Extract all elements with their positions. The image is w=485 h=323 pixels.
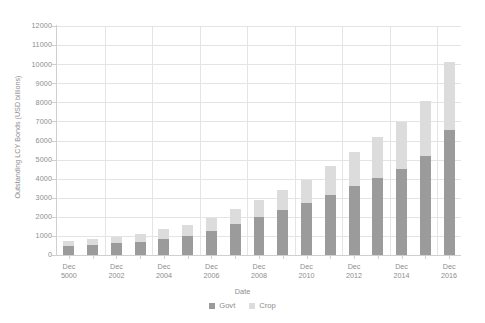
gridline-vertical — [152, 26, 153, 255]
y-tick-mark — [52, 64, 56, 65]
gridline-horizontal — [57, 102, 461, 103]
bar-segment-govt[interactable] — [230, 224, 241, 255]
bar-stack[interactable] — [111, 237, 122, 255]
x-tick-mark — [330, 255, 331, 259]
y-tick-mark — [52, 198, 56, 199]
bar-segment-crop[interactable] — [372, 137, 383, 178]
y-tick-mark — [52, 121, 56, 122]
x-tick-label-year: 2016 — [429, 271, 469, 280]
bar-stack[interactable] — [372, 137, 383, 255]
y-tick-mark — [52, 102, 56, 103]
legend-label: Crop — [259, 301, 275, 310]
bar-segment-govt[interactable] — [254, 217, 265, 255]
y-tick-label: 5000 — [36, 156, 52, 163]
bar-segment-crop[interactable] — [230, 209, 241, 224]
y-tick-label: 12000 — [32, 22, 53, 29]
x-axis-title: Date — [0, 287, 485, 296]
bar-segment-crop[interactable] — [396, 122, 407, 169]
bar-segment-crop[interactable] — [158, 229, 169, 239]
y-tick-mark — [52, 141, 56, 142]
bar-segment-govt[interactable] — [87, 245, 98, 255]
bar-stack[interactable] — [396, 122, 407, 255]
bar-segment-crop[interactable] — [420, 101, 431, 155]
x-tick-mark — [69, 255, 70, 259]
x-tick-mark — [354, 255, 355, 259]
x-tick-label: Dec2012 — [334, 262, 374, 280]
bar-segment-crop[interactable] — [63, 241, 74, 246]
x-tick-label: Dec5000 — [49, 262, 89, 280]
bar-segment-govt[interactable] — [372, 178, 383, 255]
x-tick-mark — [116, 255, 117, 259]
bar-stack[interactable] — [349, 152, 360, 255]
bar-stack[interactable] — [158, 229, 169, 255]
bar-segment-govt[interactable] — [182, 236, 193, 255]
bar-segment-crop[interactable] — [87, 239, 98, 245]
bar-segment-crop[interactable] — [206, 218, 217, 231]
bar-segment-crop[interactable] — [277, 190, 288, 210]
x-tick-label-month: Dec — [287, 262, 327, 271]
y-tick-mark — [52, 26, 56, 27]
x-tick-label-year: 2006 — [191, 271, 231, 280]
bar-stack[interactable] — [254, 200, 265, 255]
x-tick-label: Dec2002 — [96, 262, 136, 280]
bar-segment-crop[interactable] — [301, 180, 312, 204]
bar-segment-crop[interactable] — [325, 166, 336, 195]
bar-segment-crop[interactable] — [349, 152, 360, 186]
x-tick-mark — [378, 255, 379, 259]
bar-segment-govt[interactable] — [63, 246, 74, 255]
gridline-horizontal — [57, 64, 461, 65]
x-tick-mark — [307, 255, 308, 259]
bar-segment-govt[interactable] — [349, 186, 360, 255]
x-tick-label-year: 5000 — [49, 271, 89, 280]
bar-stack[interactable] — [277, 190, 288, 255]
x-tick-label-year: 2014 — [382, 271, 422, 280]
bar-stack[interactable] — [63, 241, 74, 255]
bar-stack[interactable] — [420, 101, 431, 255]
bar-segment-crop[interactable] — [111, 237, 122, 243]
x-tick-mark — [235, 255, 236, 259]
bar-stack[interactable] — [206, 218, 217, 255]
y-tick-mark — [52, 255, 56, 256]
bar-segment-govt[interactable] — [396, 169, 407, 255]
x-tick-mark — [425, 255, 426, 259]
x-tick-mark — [188, 255, 189, 259]
bar-segment-govt[interactable] — [444, 130, 455, 255]
y-tick-label: 4000 — [36, 175, 52, 182]
bar-stack[interactable] — [87, 239, 98, 255]
x-tick-label: Dec2008 — [239, 262, 279, 280]
bar-stack[interactable] — [444, 62, 455, 255]
bar-chart: 0100020003000400050006000700080009000100… — [0, 0, 485, 323]
legend-swatch-icon — [209, 303, 215, 309]
y-tick-mark — [52, 236, 56, 237]
bar-stack[interactable] — [325, 166, 336, 255]
legend-item[interactable]: Govt — [209, 301, 235, 310]
bar-stack[interactable] — [230, 209, 241, 255]
y-tick-label: 8000 — [36, 99, 52, 106]
bar-segment-govt[interactable] — [135, 242, 146, 255]
bar-stack[interactable] — [135, 234, 146, 255]
legend-label: Govt — [219, 301, 235, 310]
bar-segment-crop[interactable] — [182, 225, 193, 236]
bar-segment-govt[interactable] — [158, 239, 169, 255]
legend-item[interactable]: Crop — [249, 301, 275, 310]
x-tick-mark — [283, 255, 284, 259]
y-tick-mark — [52, 179, 56, 180]
bar-segment-crop[interactable] — [254, 200, 265, 217]
bar-segment-govt[interactable] — [277, 210, 288, 255]
bar-stack[interactable] — [301, 180, 312, 255]
bar-segment-govt[interactable] — [420, 156, 431, 255]
bar-segment-crop[interactable] — [444, 62, 455, 130]
bar-segment-govt[interactable] — [325, 195, 336, 255]
bar-segment-govt[interactable] — [206, 231, 217, 255]
bar-segment-govt[interactable] — [301, 203, 312, 255]
bar-stack[interactable] — [182, 225, 193, 255]
gridline-horizontal — [57, 83, 461, 84]
x-tick-label-year: 2010 — [287, 271, 327, 280]
y-tick-mark — [52, 45, 56, 46]
x-tick-label: Dec2010 — [287, 262, 327, 280]
bar-segment-crop[interactable] — [135, 234, 146, 242]
y-tick-label: 3000 — [36, 194, 52, 201]
plot-area — [57, 26, 461, 255]
bar-segment-govt[interactable] — [111, 243, 122, 255]
y-tick-label: 2000 — [36, 213, 52, 220]
